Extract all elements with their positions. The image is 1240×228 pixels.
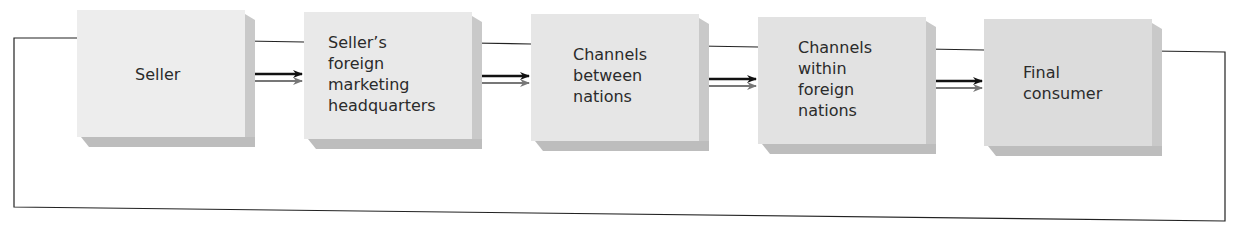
node-final-consumer: Final consumer	[984, 19, 1152, 146]
node-label: Seller	[135, 64, 180, 85]
box-shadow	[762, 144, 936, 154]
node-channels-between-nations: Channels between nations	[531, 14, 699, 141]
node-label: Channels between nations	[573, 44, 647, 107]
box-shadow	[988, 146, 1162, 156]
box-shadow	[1152, 23, 1162, 150]
node-label: Final consumer	[1023, 62, 1102, 104]
box-shadow	[472, 16, 482, 143]
node-channels-within-foreign-nations: Channels within foreign nations	[758, 17, 926, 144]
box-shadow	[81, 137, 255, 147]
international-channel-diagram: Seller Seller’s foreign marketing headqu…	[0, 0, 1240, 228]
node-foreign-marketing-hq: Seller’s foreign marketing headquarters	[304, 12, 472, 139]
box-shadow	[245, 14, 255, 141]
node-label: Seller’s foreign marketing headquarters	[328, 32, 436, 116]
node-seller: Seller	[77, 10, 245, 137]
box-shadow	[699, 18, 709, 145]
box-shadow	[535, 141, 709, 151]
node-label: Channels within foreign nations	[798, 37, 872, 121]
box-shadow	[926, 21, 936, 148]
box-shadow	[308, 139, 482, 149]
